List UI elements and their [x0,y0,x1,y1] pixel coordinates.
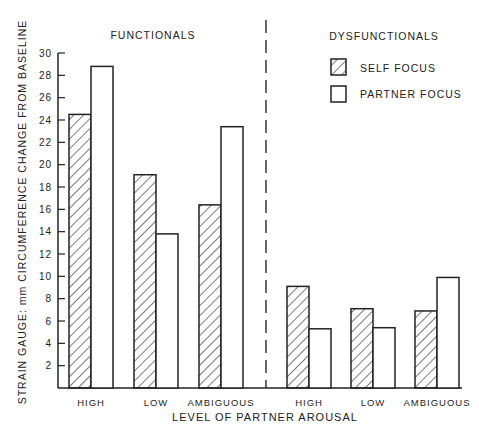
x-tick-label: AMBIGUOUS [187,397,254,408]
legend: SELF FOCUS PARTNER FOCUS [331,59,462,102]
group-title-dysfunctionals: DYSFUNCTIONALS [329,30,439,42]
legend-label-partner-focus: PARTNER FOCUS [360,88,462,100]
bar-functionals-ambiguous-partner-focus [221,127,243,388]
y-tick-label: 22 [39,137,52,148]
bar-functionals-low-partner-focus [156,234,178,388]
bar-dysfunctionals-high-partner-focus [309,329,331,388]
group-title-functionals: FUNCTIONALS [110,29,195,41]
y-tick-label: 12 [39,249,52,260]
y-tick-label: 16 [39,204,52,215]
bar-dysfunctionals-high-self-focus [287,286,309,388]
y-tick-label: 18 [39,182,52,193]
x-tick-label: HIGH [295,397,323,408]
x-axis-label: LEVEL OF PARTNER AROUSAL [172,411,358,423]
bar-functionals-high-self-focus [69,114,91,388]
y-tick-label: 10 [39,271,52,282]
legend-swatch-partner-focus [331,86,346,102]
legend-swatch-self-focus [331,59,346,75]
x-tick-label: AMBIGUOUS [403,397,470,408]
y-tick-label: 30 [39,48,52,59]
y-tick-label: 26 [39,92,52,103]
x-tick-label: LOW [144,397,169,408]
x-tick-label: LOW [361,397,386,408]
y-tick-label: 2 [45,360,52,371]
y-tick-label: 24 [39,115,52,126]
y-tick-label: 6 [45,316,52,327]
y-tick-label: 14 [39,226,52,237]
y-tick-label: 28 [39,70,52,81]
y-tick-label: 4 [45,338,52,349]
bar-dysfunctionals-ambiguous-partner-focus [437,277,459,388]
bar-functionals-high-partner-focus [91,66,113,388]
y-tick-label: 8 [45,293,52,304]
legend-label-self-focus: SELF FOCUS [360,62,436,74]
bar-dysfunctionals-low-self-focus [351,309,373,388]
bar-dysfunctionals-ambiguous-self-focus [415,311,437,388]
bar-functionals-low-self-focus [134,175,156,388]
bars: HIGHLOWAMBIGUOUSHIGHLOWAMBIGUOUS [69,66,471,408]
x-tick-label: HIGH [77,397,105,408]
bar-functionals-ambiguous-self-focus [199,205,221,388]
bar-chart: 24681012141618202224262830 HIGHLOWAMBIGU… [0,0,479,439]
y-tick-label: 20 [39,159,52,170]
y-axis-label: STRAIN GAUGE: mm CIRCUMFERENCE CHANGE FR… [16,20,28,405]
bar-dysfunctionals-low-partner-focus [373,328,395,388]
